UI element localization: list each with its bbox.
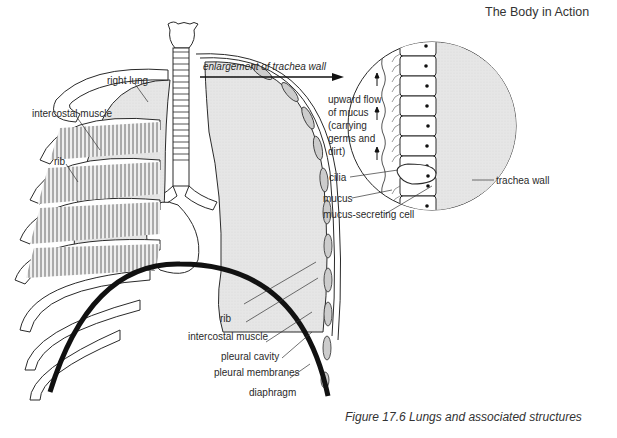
label-cilia: cilia [329, 172, 346, 183]
running-title: The Body in Action [485, 5, 589, 19]
label-rib-top: rib [54, 156, 65, 167]
label-right-lung: right lung [107, 75, 148, 86]
label-rib-bottom: rib [220, 313, 231, 324]
label-flow-4: germs and [328, 133, 375, 144]
label-intercostal-muscle-bottom: intercostal muscle [188, 331, 268, 342]
label-flow-2: of mucus [328, 107, 369, 118]
label-mucus: mucus [323, 193, 352, 204]
label-mucus-secreting-cell: mucus-secreting cell [323, 209, 414, 220]
figure-caption: Figure 17.6 Lungs and associated structu… [345, 410, 582, 424]
label-flow-1: upward flow [328, 94, 381, 105]
label-pleural-cavity: pleural cavity [221, 351, 279, 362]
label-diaphragm: diaphragm [249, 387, 296, 398]
trachea-wall-inset [348, 30, 555, 230]
larynx [168, 22, 198, 48]
label-trachea-wall: trachea wall [496, 175, 549, 186]
label-intercostal-muscle-top: intercostal muscle [32, 108, 112, 119]
label-pleural-membranes: pleural membranes [214, 367, 300, 378]
enlargement-label: enlargement of trachea wall [203, 61, 326, 72]
label-flow-3: (carrying [328, 120, 367, 131]
label-flow-5: dirt) [328, 146, 345, 157]
